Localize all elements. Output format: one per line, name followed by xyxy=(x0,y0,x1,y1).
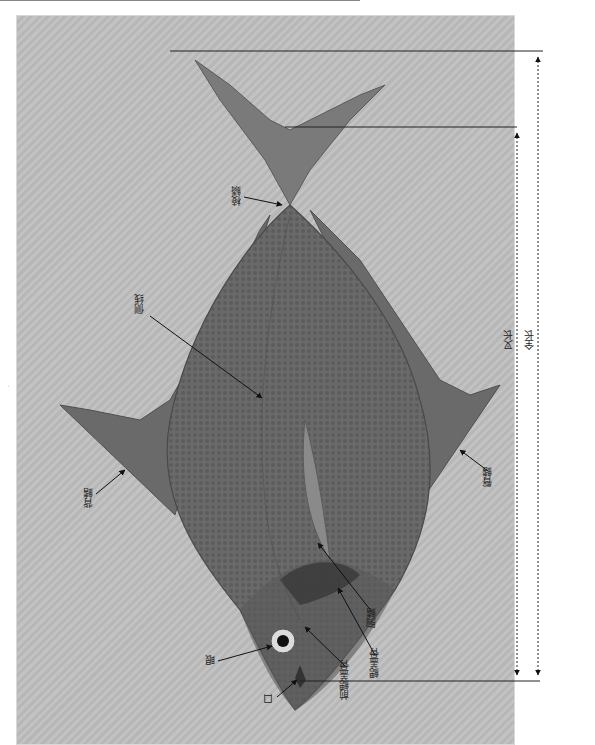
fish-diagram xyxy=(0,0,595,745)
label-mouth: 口 xyxy=(264,694,274,704)
label-preopercle: 前鳃盖骨 xyxy=(340,660,350,700)
label-dorsal-fin: 背鳍 xyxy=(84,488,94,508)
label-anal-fin: 臀鳍 xyxy=(483,467,493,487)
label-lateral-line: 侧线 xyxy=(135,294,145,314)
label-keeled-scales: 棱鳞 xyxy=(232,186,242,206)
label-opercle: 鳃盖骨 xyxy=(370,648,380,678)
fish-body xyxy=(167,205,430,710)
caudal-fin xyxy=(195,60,385,205)
label-fork-length: 叉长 xyxy=(504,330,514,350)
label-pectoral-fin: 胸鳍 xyxy=(367,608,377,628)
label-total-length: 全长 xyxy=(525,330,535,350)
eye xyxy=(271,629,295,653)
label-eye: 眼 xyxy=(206,655,216,665)
